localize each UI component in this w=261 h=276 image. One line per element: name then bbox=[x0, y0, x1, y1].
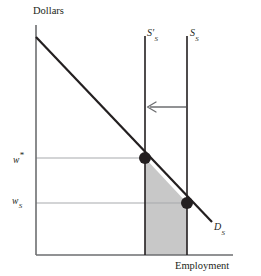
s-prime-subscript: S bbox=[154, 35, 158, 43]
old-equilibrium-point bbox=[181, 197, 193, 209]
leftward-shift-arrow bbox=[148, 102, 187, 112]
d-base: D bbox=[214, 221, 221, 232]
d-subscript: S bbox=[222, 229, 226, 237]
y-axis-title: Dollars bbox=[33, 6, 64, 17]
demand-curve-label: DS bbox=[214, 222, 225, 235]
new-equilibrium-point bbox=[139, 152, 151, 164]
demand-curve-d-s bbox=[36, 37, 212, 222]
y-tick-label-w-star: w* bbox=[13, 152, 24, 166]
economics-supply-shift-figure: Dollars Employment w* wS S′S SS DS bbox=[0, 0, 261, 276]
supply-curve-s-label: SS bbox=[190, 28, 199, 41]
y-tick-w-s-base: w bbox=[12, 196, 18, 206]
y-tick-w-star-superscript: * bbox=[20, 150, 25, 160]
s-subscript: S bbox=[195, 35, 199, 43]
y-tick-w-s-subscript: S bbox=[19, 202, 23, 210]
x-axis-title: Employment bbox=[175, 261, 229, 272]
supply-curve-s-prime-label: S′S bbox=[147, 28, 158, 41]
y-tick-w-star-base: w bbox=[13, 155, 19, 165]
y-tick-label-w-s: wS bbox=[12, 197, 22, 209]
